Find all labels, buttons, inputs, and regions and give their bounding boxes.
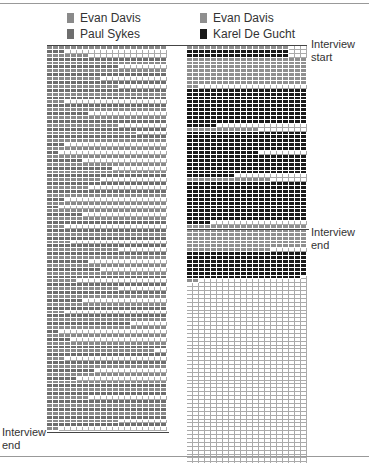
left-end-line (47, 432, 169, 433)
waffle-right (187, 46, 307, 463)
legend-item-karel-de-gucht: Karel De Gucht (200, 26, 295, 42)
legend-item-evan-davis: Evan Davis (200, 10, 295, 26)
legend-swatch (67, 13, 74, 23)
legend-left: Evan Davis Paul Sykes (67, 10, 141, 42)
legend-label: Evan Davis (213, 10, 274, 26)
legend-item-evan-davis: Evan Davis (67, 10, 141, 26)
legend-swatch (200, 29, 207, 39)
label-line: start (311, 51, 355, 64)
legend-swatch (200, 13, 207, 23)
legend-label: Karel De Gucht (213, 26, 295, 42)
label-line: Interview (311, 226, 355, 239)
label-line: end (311, 239, 355, 252)
interview-end-left-label: Interview end (2, 426, 46, 452)
top-rule (0, 3, 369, 4)
right-top-line (187, 45, 307, 46)
legend-label: Paul Sykes (80, 26, 140, 42)
legend-label: Evan Davis (80, 10, 141, 26)
right-end-line (187, 229, 309, 230)
legend-right: Evan Davis Karel De Gucht (200, 10, 295, 42)
legend-item-paul-sykes: Paul Sykes (67, 26, 141, 42)
waffle-cell (161, 427, 167, 431)
label-line: end (2, 439, 46, 452)
waffle-left (47, 46, 167, 431)
legend-swatch (67, 29, 74, 39)
interview-end-right-label: Interview end (311, 226, 355, 252)
label-line: Interview (2, 426, 46, 439)
interview-start-label: Interview start (311, 38, 355, 64)
bottom-rule (0, 456, 369, 457)
label-line: Interview (311, 38, 355, 51)
